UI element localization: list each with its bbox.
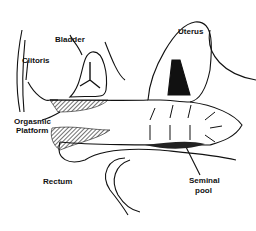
label-platform: Platform — [16, 126, 48, 135]
vulva-outline — [28, 82, 58, 100]
label-bladder: Bladder — [55, 35, 85, 44]
label-orgasmic: Orgasmic — [14, 117, 51, 126]
expansion-arrows — [150, 105, 222, 142]
bladder-outline — [70, 52, 106, 97]
label-uterus: Uterus — [178, 27, 203, 36]
anatomy-diagram: Bladder Uterus Clitoris Orgasmic Platfor… — [0, 0, 256, 231]
label-clitoris: Clitoris — [22, 56, 50, 65]
uterine-cavity — [168, 60, 190, 95]
body-outline — [17, 30, 22, 112]
orgasmic-platform-lower — [51, 127, 110, 150]
label-pool: pool — [195, 186, 212, 195]
label-seminal: Seminal — [189, 176, 220, 185]
seminal-pool-leader — [185, 145, 200, 175]
seminal-pool — [145, 142, 205, 149]
label-rectum: Rectum — [43, 177, 72, 186]
orgasmic-platform-upper — [50, 100, 108, 112]
diagram-drawing — [0, 0, 256, 231]
